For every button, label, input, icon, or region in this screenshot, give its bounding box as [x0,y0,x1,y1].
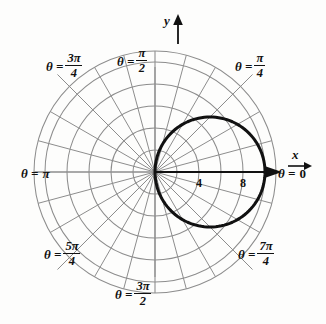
polar-figure: y x θ =π2 θ =3π4 θ =π4 θ =π θ =0 θ =5π4 … [0,0,326,324]
theta-label-pi: θ =π [21,165,50,180]
fraction-five-pi-over-4: 5π4 [63,239,80,268]
theta-value-pi: π [42,167,49,180]
fraction-pi-over-4: π4 [254,51,265,80]
theta-eq-text-pi: θ = [21,167,38,180]
fraction-seven-pi-over-4: 7π4 [257,239,274,268]
fraction-numerator: 5π [63,239,80,254]
theta-eq-text-three-pi-over-2: θ = [115,288,132,301]
fraction-numerator: π [136,46,147,61]
theta-eq-text-five-pi-over-4: θ = [44,248,61,261]
theta-eq-text-pi-over-4: θ = [235,60,252,73]
theta-eq-text-pi-over-2: θ = [117,55,134,68]
fraction-numerator: 3π [65,51,82,66]
theta-label-pi-over-4: θ =π4 [235,52,265,81]
fraction-pi-over-2: π2 [136,46,147,75]
y-axis-arrowhead [173,14,183,25]
fraction-denominator: 2 [136,61,147,75]
radial-tick-label-8: 8 [240,177,246,189]
theta-label-seven-pi-over-4: θ =7π4 [238,240,274,269]
fraction-denominator: 4 [254,66,265,80]
fraction-three-pi-over-4: 3π4 [65,51,82,80]
y-axis-label: y [164,14,170,27]
polar-plot-canvas [0,0,326,324]
theta-value-zero: 0 [299,167,306,180]
theta-label-five-pi-over-4: θ =5π4 [44,240,80,269]
fraction-denominator: 4 [257,254,274,268]
theta-label-three-pi-over-2: θ =3π2 [115,280,151,309]
fraction-denominator: 2 [134,294,151,308]
theta-eq-text-zero: θ = [278,167,295,180]
radial-tick-label-4: 4 [196,177,202,189]
fraction-numerator: 7π [257,239,274,254]
x-axis-label: x [292,148,299,161]
fraction-numerator: 3π [134,279,151,294]
theta-label-three-pi-over-4: θ =3π4 [46,52,82,81]
fraction-three-pi-over-2: 3π2 [134,279,151,308]
theta-eq-text-three-pi-over-4: θ = [46,60,63,73]
fraction-denominator: 4 [63,254,80,268]
theta-eq-text-seven-pi-over-4: θ = [238,248,255,261]
fraction-numerator: π [254,51,265,66]
theta-label-zero: θ =0 [278,165,306,180]
theta-label-pi-over-2: θ =π2 [117,47,147,76]
fraction-denominator: 4 [65,66,82,80]
